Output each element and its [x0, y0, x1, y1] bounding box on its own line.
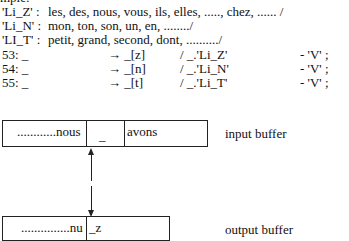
rule-output: → _[t] — [108, 75, 143, 91]
input-buffer: ............nous _ avons — [2, 120, 208, 147]
list-label: 'Li_Z' : — [2, 5, 48, 19]
list-items: les, des, nous, vous, ils, elles, .....,… — [48, 4, 283, 19]
list-li-n: 'Li_N' :mon, ton, son, un, en, ......../ — [2, 19, 193, 33]
list-label: 'Li_N' : — [2, 19, 48, 33]
input-cell-left: ............nous — [17, 121, 87, 146]
list-items: petit, grand, second, dont, ........../ — [48, 32, 222, 47]
input-cell-current: _ — [99, 121, 119, 146]
rule-context: / _.'Li_T' — [180, 75, 227, 91]
input-cell-right: avons — [127, 121, 197, 146]
output-cell-current: _z — [89, 217, 129, 240]
rule-condition: - 'V' ; — [300, 75, 329, 91]
list-label: 'LI_T' : — [2, 33, 48, 47]
list-items: mon, ton, son, un, en, ......../ — [48, 18, 193, 33]
arrow-down-shaft — [91, 186, 92, 211]
rule-54: 54: _ → _[n] / _.'Li_N' - 'V' ; — [0, 61, 349, 75]
list-li-z: 'Li_Z' :les, des, nous, vous, ils, elles… — [2, 5, 283, 19]
divider — [86, 121, 87, 146]
list-li-t: 'LI_T' :petit, grand, second, dont, ....… — [2, 33, 222, 47]
output-buffer: ...............nu _z — [2, 216, 170, 241]
output-cell-left: ...............nu — [21, 217, 87, 240]
rule-53: 53: _ → _[z] / _.'Li_Z' - 'V' ; — [0, 47, 349, 61]
arrow-up-shaft — [91, 154, 92, 181]
input-buffer-label: input buffer — [225, 126, 287, 142]
divider — [124, 121, 125, 146]
divider — [86, 217, 87, 240]
rule-55: 55: _ → _[t] / _.'Li_T' - 'V' ; — [0, 75, 349, 89]
rule-number: 55: _ — [2, 75, 28, 91]
output-buffer-label: output buffer — [225, 222, 293, 238]
